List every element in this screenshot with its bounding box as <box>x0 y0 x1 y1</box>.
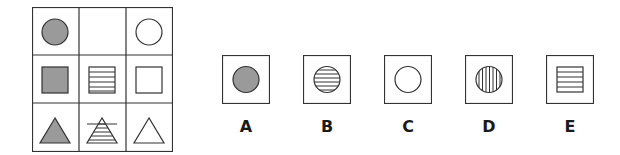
option-a[interactable]: A <box>222 55 270 104</box>
option-e-box <box>546 55 594 104</box>
option-e-label: E <box>546 117 594 136</box>
white-circle-icon <box>395 67 421 93</box>
puzzle-grid <box>32 7 173 152</box>
white-square-icon <box>136 67 162 93</box>
white-circle-icon <box>136 19 162 45</box>
option-d-label: D <box>465 117 513 136</box>
grid-svg <box>32 7 173 152</box>
option-e[interactable]: E <box>546 55 594 104</box>
option-d[interactable]: D <box>465 55 513 104</box>
option-b-label: B <box>303 117 351 136</box>
horizontal-striped-circle-icon <box>313 67 341 93</box>
option-b-box <box>303 55 351 104</box>
gray-square-icon <box>42 67 68 93</box>
striped-square-icon <box>557 67 583 92</box>
option-c-box <box>384 55 432 104</box>
striped-square-icon <box>89 67 115 93</box>
option-b[interactable]: B <box>303 55 351 104</box>
option-c-label: C <box>384 117 432 136</box>
gray-circle-icon <box>233 67 259 93</box>
option-a-box <box>222 55 270 104</box>
gray-circle-icon <box>42 19 68 45</box>
option-c[interactable]: C <box>384 55 432 104</box>
option-d-box <box>465 55 513 104</box>
option-a-label: A <box>222 117 270 136</box>
